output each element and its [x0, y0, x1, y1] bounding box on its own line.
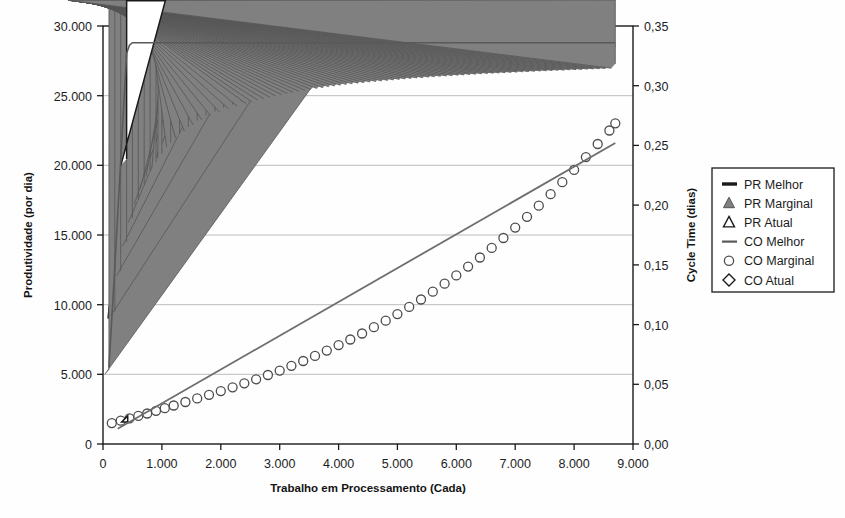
series-marker: [275, 366, 284, 375]
chart-container: 05.00010.00015.00020.00025.00030.000 0,0…: [0, 0, 845, 518]
series-marker: [405, 302, 414, 311]
series-marker: [299, 357, 308, 366]
x-tick-label: 5.000: [382, 457, 413, 471]
series-marker: [216, 387, 225, 396]
series-marker: [311, 351, 320, 360]
legend-label: PR Marginal: [744, 197, 813, 211]
y2-tick-label: 0,20: [644, 199, 668, 213]
y2-tick-label: 0,00: [644, 438, 668, 452]
series-marker: [417, 295, 426, 304]
y-tick-label: 0: [85, 438, 92, 452]
series-marker: [499, 234, 508, 243]
series-marker: [487, 243, 496, 252]
series-marker: [228, 383, 237, 392]
y2-tick-label: 0,10: [644, 319, 668, 333]
series-marker: [322, 346, 331, 355]
series-marker: [523, 212, 532, 221]
series-marker: [181, 398, 190, 407]
y-tick-label: 30.000: [54, 20, 92, 34]
y-tick-label: 10.000: [54, 299, 92, 313]
x-tick-label: 2.000: [205, 457, 236, 471]
series-marker: [428, 287, 437, 296]
y2-axis-title: Cycle Time (dias): [685, 188, 697, 283]
x-tick-label: 9.000: [617, 457, 648, 471]
chart-figure: 05.00010.00015.00020.00025.00030.000 0,0…: [0, 0, 845, 518]
series-marker: [107, 419, 116, 428]
series-marker: [546, 190, 555, 199]
series-marker: [593, 140, 602, 149]
series-marker: [611, 119, 620, 128]
series-marker: [393, 310, 402, 319]
series-marker: [252, 375, 261, 384]
y-axis-title: Produtividade (por dia): [22, 172, 34, 298]
series-marker: [558, 178, 567, 187]
series-marker: [263, 371, 272, 380]
x-tick-label: 6.000: [441, 457, 472, 471]
x-tick-label: 3.000: [264, 457, 295, 471]
y2-tick-label: 0,15: [644, 259, 668, 273]
x-tick-label: 4.000: [323, 457, 354, 471]
series-marker: [475, 253, 484, 262]
legend-label: CO Marginal: [744, 254, 814, 268]
y2-tick-label: 0,30: [644, 80, 668, 94]
chart-legend: PR MelhorPR MarginalPR AtualCO MelhorCO …: [712, 168, 834, 292]
x-tick-label: 0: [100, 457, 107, 471]
legend-label: CO Atual: [744, 274, 794, 288]
series-marker: [160, 404, 169, 413]
y2-tick-label: 0,05: [644, 378, 668, 392]
series-marker: [169, 401, 178, 410]
series-marker: [240, 379, 249, 388]
series-marker: [452, 271, 461, 280]
x-tick-label: 1.000: [146, 457, 177, 471]
series-marker: [440, 279, 449, 288]
series-marker: [464, 262, 473, 271]
series-marker: [346, 335, 355, 344]
x-tick-label: 7.000: [500, 457, 531, 471]
series-marker: [358, 329, 367, 338]
legend-label: PR Atual: [744, 216, 793, 230]
series-marker: [381, 316, 390, 325]
series-marker: [193, 394, 202, 403]
series-marker: [534, 201, 543, 210]
x-axis-title: Trabalho em Processamento (Cada): [270, 482, 466, 494]
y2-tick-label: 0,35: [644, 20, 668, 34]
y-tick-label: 25.000: [54, 90, 92, 104]
x-tick-label: 8.000: [558, 457, 589, 471]
series-marker: [205, 390, 214, 399]
series-marker: [369, 323, 378, 332]
series-marker: [511, 223, 520, 232]
legend-label: CO Melhor: [744, 235, 804, 249]
y-tick-label: 20.000: [54, 159, 92, 173]
legend-label: PR Melhor: [744, 178, 803, 192]
y-tick-label: 5.000: [61, 368, 92, 382]
y2-tick-label: 0,25: [644, 139, 668, 153]
open-circle-icon: [724, 256, 733, 265]
y-tick-label: 15.000: [54, 229, 92, 243]
series-marker: [334, 341, 343, 350]
series-marker: [287, 361, 296, 370]
